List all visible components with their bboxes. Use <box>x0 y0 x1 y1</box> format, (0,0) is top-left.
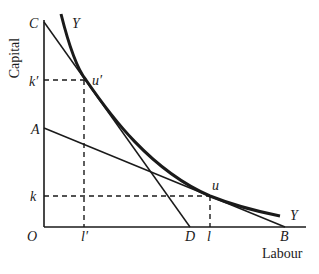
label-a: A <box>30 122 40 137</box>
isoquant-curve-y <box>61 14 280 216</box>
label-d: D <box>184 229 195 244</box>
label-u: u <box>212 178 219 193</box>
isoquant-diagram: Capital Labour C Y k′ u′ A k u Y O l′ D … <box>0 0 319 274</box>
label-k-prime: k′ <box>29 74 39 89</box>
label-b: B <box>280 229 289 244</box>
label-l: l <box>207 229 211 244</box>
label-y-bottom: Y <box>290 208 300 223</box>
label-l-prime: l′ <box>81 229 89 244</box>
isocost-line-ab <box>44 128 285 227</box>
label-c: C <box>29 16 39 31</box>
y-axis-title: Capital <box>7 38 22 79</box>
label-u-prime: u′ <box>92 73 103 88</box>
label-y-top: Y <box>72 16 82 31</box>
label-origin: O <box>27 229 37 244</box>
label-k: k <box>30 189 37 204</box>
x-axis-title: Labour <box>262 246 303 261</box>
